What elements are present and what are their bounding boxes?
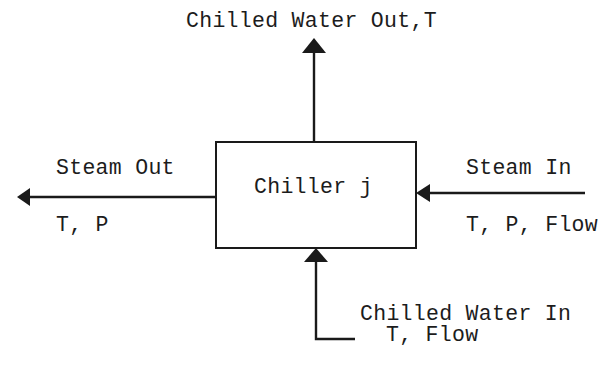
chiller-diagram: Chiller j Chilled Water Out,T Steam Out …: [0, 0, 608, 368]
arrow-up-icon: [304, 248, 328, 262]
arrow-left-icon: [17, 188, 30, 206]
chilled-water-in-connector: [304, 248, 355, 339]
steam-out-label: Steam Out: [56, 158, 175, 180]
arrow-up-icon: [302, 38, 326, 53]
arrow-left-icon: [416, 184, 430, 202]
steam-out-connector: [17, 188, 216, 206]
chiller-block-label: Chiller j: [254, 177, 373, 199]
steam-in-label: Steam In: [466, 158, 572, 180]
steam-out-properties: T, P: [56, 215, 109, 237]
chilled-water-in-properties: T, Flow: [386, 325, 478, 347]
chilled-water-out-connector: [302, 38, 326, 142]
chilled-water-out-label: Chilled Water Out,T: [186, 11, 437, 33]
steam-in-properties: T, P, Flow: [466, 215, 598, 237]
steam-in-connector: [416, 184, 585, 202]
